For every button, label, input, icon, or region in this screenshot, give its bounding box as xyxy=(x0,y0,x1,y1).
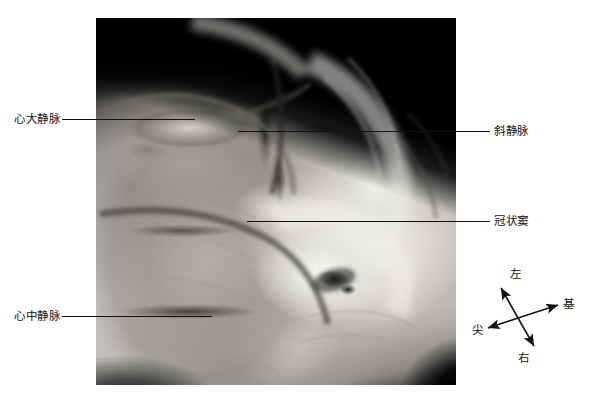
leader-line-great-cardiac-vein xyxy=(62,119,195,120)
orientation-compass: 左 基 尖 右 xyxy=(468,266,588,376)
compass-arrow-base xyxy=(518,305,558,318)
compass-label-left: 左 xyxy=(510,268,521,281)
compass-label-base: 基 xyxy=(563,298,574,311)
photo-structure-overlay xyxy=(96,18,456,385)
leader-line-middle-cardiac-vein xyxy=(62,316,212,317)
specimen-photograph xyxy=(96,18,456,385)
figure-page: 心大静脉 心中静脉 斜静脉 冠状窦 左 基 尖 右 xyxy=(0,0,591,402)
label-oblique-vein: 斜静脉 xyxy=(494,124,529,138)
compass-label-apex: 尖 xyxy=(472,324,483,337)
leader-line-coronary-sinus xyxy=(247,221,490,222)
label-coronary-sinus: 冠状窦 xyxy=(494,214,529,228)
compass-arrow-apex xyxy=(488,318,518,328)
label-middle-cardiac-vein: 心中静脉 xyxy=(14,309,60,323)
compass-arrow-right xyxy=(518,318,534,346)
leader-line-oblique-vein xyxy=(238,131,490,132)
label-great-cardiac-vein: 心大静脉 xyxy=(14,112,60,126)
compass-arrow-left xyxy=(501,288,518,318)
compass-label-right: 右 xyxy=(518,352,529,365)
